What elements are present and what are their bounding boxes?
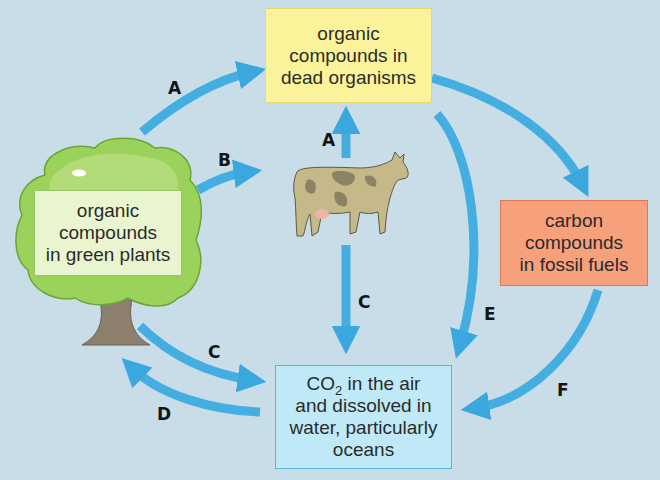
node-text: water, particularly: [290, 417, 438, 439]
co2-suffix: in the air: [342, 373, 420, 394]
node-green-plants: organic compounds in green plants: [34, 190, 182, 276]
node-text: organic: [281, 23, 416, 45]
node-text: and dissolved in: [290, 395, 438, 417]
arrow-dead-to-fossil: [432, 78, 582, 184]
arrow-label-b: B: [218, 150, 231, 170]
node-text: compounds: [520, 232, 629, 254]
arrow-label-e: E: [484, 304, 496, 324]
arrow-c-plants-to-co2: [140, 326, 252, 380]
node-fossil-fuels: carbon compounds in fossil fuels: [500, 200, 648, 286]
node-text: compounds: [46, 222, 171, 244]
arrow-label-f: F: [557, 380, 569, 400]
cow-illustration: [294, 152, 408, 236]
carbon-cycle-diagram: organic compounds in dead organisms orga…: [0, 0, 660, 480]
arrow-label-c: C: [208, 342, 220, 362]
node-text-co2-line1: CO2 in the air: [290, 373, 438, 395]
node-text: compounds in: [281, 45, 416, 67]
arrow-e-dead-to-co2: [437, 114, 474, 345]
node-dead-organisms: organic compounds in dead organisms: [265, 8, 432, 103]
arrow-label-d: D: [157, 404, 171, 424]
arrow-label-a: A: [168, 78, 181, 98]
co2-prefix: CO: [307, 373, 336, 394]
arrow-label-c: C: [358, 292, 370, 312]
node-text: organic: [46, 200, 171, 222]
node-text: carbon: [520, 210, 629, 232]
node-text: dead organisms: [281, 67, 416, 89]
arrow-a-plants-to-dead: [142, 72, 252, 132]
node-co2: CO2 in the air and dissolved in water, p…: [275, 365, 452, 469]
arrow-label-a: A: [322, 130, 335, 150]
node-text: in fossil fuels: [520, 254, 629, 276]
arrow-b-plants-to-animals: [198, 172, 248, 190]
node-text: in green plants: [46, 244, 171, 266]
node-text: oceans: [290, 439, 438, 461]
